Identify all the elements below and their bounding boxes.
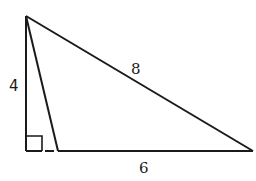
label-base-6: 6: [139, 159, 149, 177]
side-8-line: [26, 16, 253, 151]
label-altitude: 4: [9, 77, 19, 95]
short-side-line: [26, 16, 58, 151]
label-side-8: 8: [131, 60, 141, 78]
triangle-diagram: 4 8 6: [0, 0, 256, 181]
right-angle-marker: [27, 136, 42, 151]
